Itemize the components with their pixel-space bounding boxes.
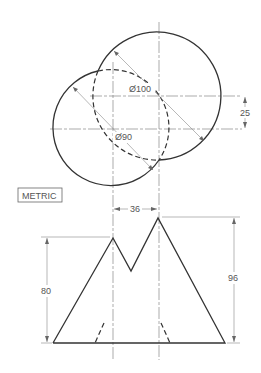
dia100-label: Ø100 (129, 84, 151, 94)
hidden-line-right (161, 323, 170, 343)
height96-arrow-top (232, 218, 236, 224)
technical-drawing: Ø100 Ø90 25 METRIC 36 (0, 0, 261, 373)
offset25-label: 25 (240, 108, 250, 118)
spacing36-label: 36 (130, 204, 140, 214)
height96-arrow-bottom (232, 336, 236, 342)
top-view: Ø100 Ø90 25 (50, 22, 253, 360)
height80-arrow-top (45, 238, 49, 244)
hidden-line-left (95, 323, 104, 343)
height80-label: 80 (41, 286, 51, 296)
height96-label: 96 (228, 273, 238, 283)
offset25-arrow-bottom (243, 122, 247, 128)
metric-label: METRIC (22, 191, 57, 201)
metric-label-box: METRIC (18, 188, 62, 202)
spacing36-arrow-left (114, 207, 120, 211)
offset25-arrow-top (243, 97, 247, 103)
front-view: 36 80 96 (40, 203, 241, 343)
height80-arrow-bottom (45, 336, 49, 342)
spacing36-arrow-right (151, 207, 157, 211)
dia90-label: Ø90 (115, 132, 132, 142)
